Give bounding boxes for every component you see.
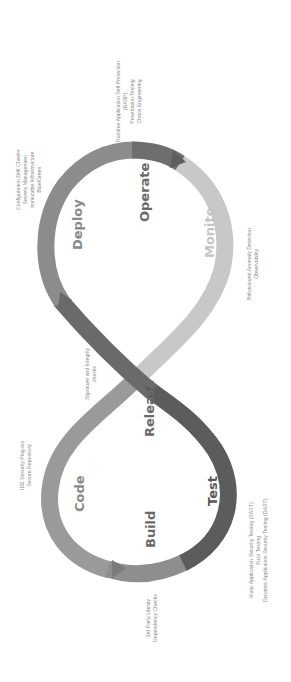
annotation-deploy: Configuration Drift Checks Secrets Manag… [15, 149, 43, 210]
annotation-test: Static Application Security Testing (SAS… [248, 499, 269, 602]
annotation-build: 3rd Party Library Dependency Checks [145, 594, 159, 642]
segment-release [60, 300, 152, 392]
stage-label-deploy: Deploy [70, 199, 85, 250]
annotation-code: IDE Security Plug-ins Secure Repository [19, 441, 33, 490]
stage-label-code: Code [72, 475, 87, 512]
stage-label-build: Build [143, 511, 158, 548]
segment-code [50, 380, 135, 570]
annotation-monitor: Behavioural Anomaly Detection Observabil… [246, 228, 260, 300]
stage-label-test: Test [205, 476, 220, 506]
annotation-operate: Runtime Application Self Protection (RAS… [115, 61, 143, 142]
segment-deploy [46, 150, 135, 302]
stage-label-operate: Operate [137, 163, 152, 222]
stage-label-release: Release [142, 380, 157, 437]
stage-label-monitor: Monitor [202, 201, 217, 258]
annotation-release: Signature and Integrity checks [84, 348, 98, 400]
